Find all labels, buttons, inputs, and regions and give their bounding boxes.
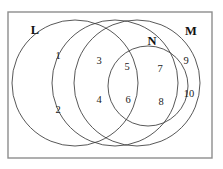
region-number-4: 4: [96, 94, 102, 105]
set-label-m: M: [185, 24, 197, 38]
venn-diagram-svg: L N M 1 2 3 4 5 6 7 8 9 10: [0, 0, 223, 169]
region-number-7: 7: [157, 63, 162, 74]
region-number-6: 6: [125, 94, 130, 105]
region-number-8: 8: [158, 96, 163, 107]
region-number-2: 2: [55, 104, 60, 115]
set-label-n: N: [147, 34, 156, 48]
region-number-3: 3: [96, 55, 101, 66]
region-number-1: 1: [55, 50, 60, 61]
set-label-l: L: [31, 23, 39, 37]
region-number-9: 9: [183, 55, 188, 66]
venn-diagram-container: L N M 1 2 3 4 5 6 7 8 9 10: [0, 0, 223, 169]
region-number-10: 10: [184, 88, 195, 99]
region-number-5: 5: [124, 61, 129, 72]
